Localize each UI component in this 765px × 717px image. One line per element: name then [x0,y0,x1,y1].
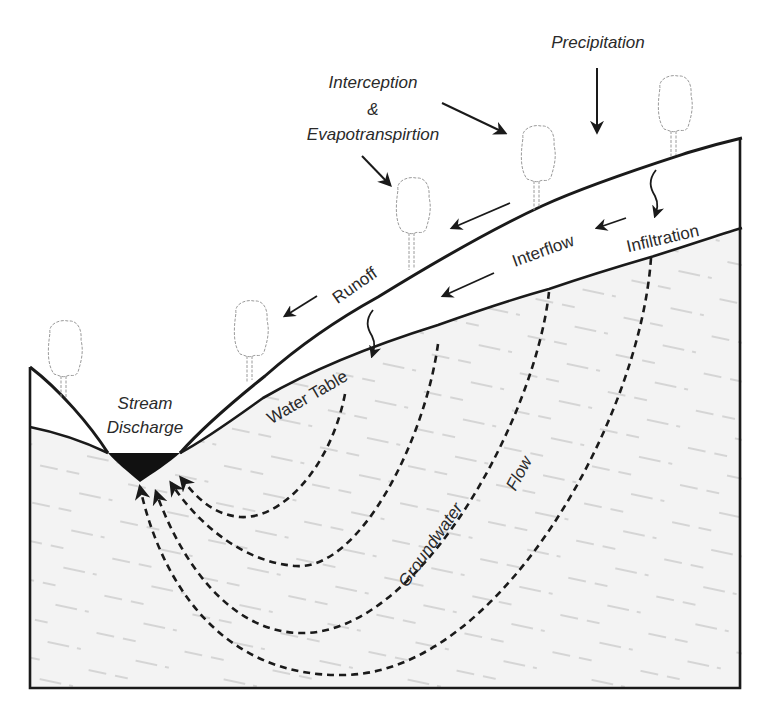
interflow-label: Interflow [510,231,578,271]
interflow-arrow [597,218,626,228]
ampersand-label: & [367,100,378,119]
tree-icon [658,76,692,157]
infiltration-arrow [651,170,658,216]
hydrologic-cycle-diagram: Precipitation Interception & Evapotransp… [0,0,765,717]
precipitation-label: Precipitation [551,33,645,52]
evapotranspiration-arrow [362,156,390,185]
tree-icon [521,126,555,210]
interception-label: Interception [329,73,418,92]
interception-arrow [442,103,505,133]
runoff-arrow [285,296,317,316]
tree-icon [396,178,430,270]
runoff-arrow [452,203,510,228]
discharge-label: Discharge [107,418,184,437]
interflow-arrow [443,273,494,296]
tree-icon [234,301,268,382]
evapotranspiration-label: Evapotranspirtion [307,125,439,144]
stream-label: Stream [118,394,173,413]
